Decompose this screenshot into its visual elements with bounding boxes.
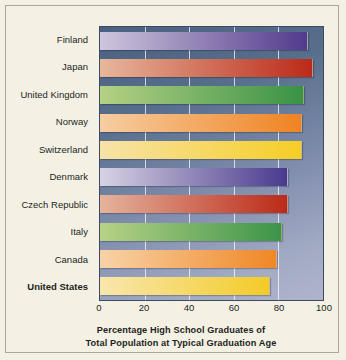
bar-united-states[interactable] (100, 277, 270, 295)
y-tick-label-czech-republic: Czech Republic (6, 196, 94, 214)
bar-row (100, 32, 323, 50)
bar-czech-republic[interactable] (100, 195, 288, 213)
x-axis-title-line-2: Total Population at Typical Graduation A… (36, 337, 326, 350)
bar-denmark[interactable] (100, 168, 288, 186)
bar-row (100, 141, 323, 159)
bar-norway[interactable] (100, 114, 302, 132)
plot-area (99, 26, 324, 301)
y-tick-label-united-kingdom: United Kingdom (6, 86, 94, 104)
chart-figure: FinlandJapanUnited KingdomNorwaySwitzerl… (0, 0, 346, 360)
bar-switzerland[interactable] (100, 141, 302, 159)
y-tick-label-finland: Finland (6, 31, 94, 49)
figure-frame: FinlandJapanUnited KingdomNorwaySwitzerl… (5, 5, 339, 353)
y-tick-label-canada: Canada (6, 251, 94, 269)
y-tick-label-switzerland: Switzerland (6, 141, 94, 159)
x-axis-title-line-1: Percentage High School Graduates of (36, 324, 326, 337)
bar-row (100, 250, 323, 268)
bar-japan[interactable] (100, 59, 313, 77)
y-tick-label-italy: Italy (6, 223, 94, 241)
x-tick-label-60: 60 (229, 302, 240, 313)
y-tick-label-denmark: Denmark (6, 168, 94, 186)
bar-canada[interactable] (100, 250, 277, 268)
x-axis-title: Percentage High School Graduates ofTotal… (36, 324, 326, 349)
bar-series (100, 27, 323, 300)
bar-row (100, 223, 323, 241)
x-axis-ticks: 020406080100 (99, 302, 325, 318)
bar-italy[interactable] (100, 223, 282, 241)
x-tick-label-100: 100 (316, 302, 332, 313)
x-tick-label-80: 80 (274, 302, 285, 313)
bar-row (100, 195, 323, 213)
bar-row (100, 168, 323, 186)
bar-finland[interactable] (100, 32, 308, 50)
x-tick-label-0: 0 (96, 302, 101, 313)
y-tick-label-norway: Norway (6, 113, 94, 131)
y-tick-label-united-states: United States (6, 278, 94, 296)
bar-row (100, 277, 323, 295)
gridline-100 (323, 27, 324, 300)
x-tick-label-20: 20 (139, 302, 150, 313)
bar-united-kingdom[interactable] (100, 86, 304, 104)
x-tick-label-40: 40 (184, 302, 195, 313)
y-axis-labels: FinlandJapanUnited KingdomNorwaySwitzerl… (6, 26, 94, 301)
bar-row (100, 86, 323, 104)
y-tick-label-japan: Japan (6, 58, 94, 76)
bar-row (100, 114, 323, 132)
bar-row (100, 59, 323, 77)
